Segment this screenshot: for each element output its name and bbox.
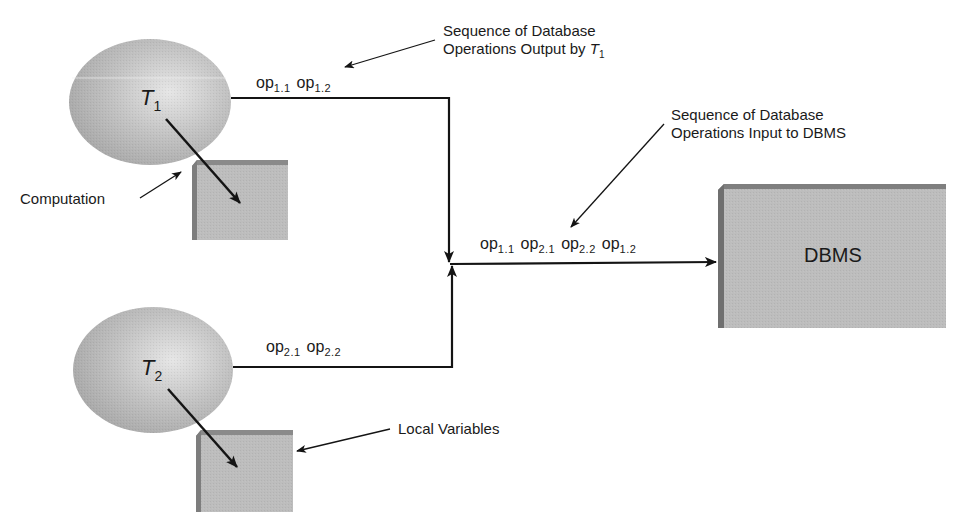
op-token: op2.1 bbox=[266, 338, 301, 355]
callout-arrow-output-by-t1 bbox=[345, 40, 435, 67]
t1-label: T1 bbox=[140, 85, 161, 114]
t2-local-variables-box bbox=[196, 430, 293, 512]
callout-local-variables: Local Variables bbox=[398, 420, 499, 438]
callout-arrow-local-variables bbox=[297, 429, 390, 451]
op-token: op2.2 bbox=[561, 235, 596, 252]
callout-arrow-computation bbox=[140, 172, 181, 198]
merged-op-sequence: op1.1op2.1op2.2op1.2 bbox=[480, 235, 642, 258]
t1-op-sequence: op1.1op1.2 bbox=[256, 74, 337, 97]
merged-input-line bbox=[450, 262, 716, 264]
callout-output-by-t1: Sequence of Database Operations Output b… bbox=[443, 22, 604, 64]
op-token: op1.1 bbox=[480, 235, 515, 252]
callout-input-to-dbms: Sequence of Database Operations Input to… bbox=[671, 106, 846, 142]
op-token: op1.1 bbox=[256, 74, 291, 91]
callout-computation: Computation bbox=[20, 190, 105, 208]
callout-arrow-input-to-dbms bbox=[571, 124, 664, 227]
t1-local-variables-box bbox=[192, 160, 288, 240]
op-token: op2.1 bbox=[521, 235, 556, 252]
op-token: op1.2 bbox=[602, 235, 637, 252]
dbms-label: DBMS bbox=[804, 244, 862, 267]
t2-label: T2 bbox=[141, 355, 162, 384]
t2-op-sequence: op2.1op2.2 bbox=[266, 338, 347, 361]
op-token: op2.2 bbox=[307, 338, 342, 355]
op-token: op1.2 bbox=[297, 74, 332, 91]
